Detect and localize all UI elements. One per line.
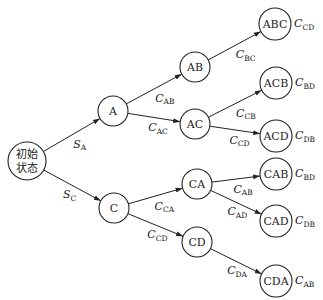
- edge-root-A: [43, 119, 100, 152]
- edge-cost-label: CAD: [227, 205, 247, 220]
- edge-CA-CAB: [212, 176, 260, 182]
- edge-cost-label: CCB: [236, 107, 256, 122]
- leaf-cost-label: CDB: [295, 214, 315, 229]
- svg-text:ACB: ACB: [263, 77, 288, 90]
- node-C: C: [99, 193, 129, 223]
- node-CAB: CAB: [260, 158, 292, 190]
- node-AC: AC: [180, 109, 210, 139]
- leaf-cost-label: CBD: [295, 167, 315, 182]
- edge-cost-label: CBC: [236, 48, 256, 63]
- edge-cost-label: CCA: [155, 200, 175, 215]
- svg-text:ACD: ACD: [262, 130, 288, 143]
- edge-cost-label: CAB: [233, 183, 253, 198]
- node-AB: AB: [180, 52, 210, 82]
- node-ACD: ACD: [260, 120, 292, 152]
- node-ABC: ABC: [259, 8, 291, 40]
- edge-cost-label: CDA: [227, 264, 247, 279]
- leaf-cost-label: CCD: [294, 17, 314, 32]
- svg-text:初始: 初始: [16, 147, 38, 161]
- svg-text:CD: CD: [188, 236, 205, 249]
- node-A: A: [98, 96, 128, 126]
- node-CDA: CDA: [260, 265, 292, 297]
- svg-text:状态: 状态: [16, 161, 38, 175]
- edge-cost-label: CCD: [229, 134, 249, 149]
- node-CD: CD: [182, 227, 212, 257]
- edge-cost-label: SA: [73, 138, 87, 153]
- edge-cost-label: CCD: [147, 228, 167, 243]
- leaf-cost-label: CDB: [295, 129, 315, 144]
- nodes: 初始状态ACABACCACDABCACBACDCABCADCDA: [8, 8, 292, 297]
- svg-text:C: C: [110, 202, 118, 215]
- svg-text:AB: AB: [186, 61, 203, 74]
- svg-text:CAB: CAB: [264, 168, 288, 181]
- node-CAD: CAD: [260, 205, 292, 237]
- svg-text:CA: CA: [189, 178, 206, 191]
- node-root: 初始状态: [8, 142, 46, 180]
- svg-text:ABC: ABC: [262, 18, 288, 31]
- tree-diagram: 初始状态ACABACCACDABCACBACDCABCADCDA SASCCAB…: [0, 0, 323, 300]
- svg-text:AC: AC: [186, 118, 203, 131]
- edge-cost-label: CAC: [148, 121, 168, 136]
- svg-text:CAD: CAD: [263, 215, 288, 228]
- edge-cost-label: CAB: [155, 92, 175, 107]
- node-CA: CA: [182, 169, 212, 199]
- edge-AC-ACD: [210, 126, 260, 133]
- node-ACB: ACB: [260, 67, 292, 99]
- svg-text:CDA: CDA: [263, 275, 289, 288]
- leaf-cost-label: CBD: [295, 76, 315, 91]
- leaf-cost-label: CAB: [295, 274, 315, 289]
- svg-text:A: A: [108, 105, 118, 118]
- edge-cost-label: SC: [63, 188, 77, 203]
